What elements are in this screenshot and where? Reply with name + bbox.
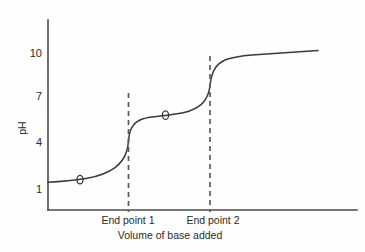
y-tick-label-7: 7 xyxy=(36,90,42,102)
titration-curve-figure: 10 7 4 1 pH End point 1 End point 2 Volu… xyxy=(0,0,365,252)
titration-curve xyxy=(48,51,318,183)
y-tick-label-4: 4 xyxy=(36,136,42,148)
y-axis-title: pH xyxy=(16,121,28,134)
chart-canvas: 10 7 4 1 pH End point 1 End point 2 Volu… xyxy=(0,0,365,252)
x-axis-title: Volume of base added xyxy=(118,229,223,241)
y-tick-label-1: 1 xyxy=(36,183,42,195)
end-point-1-label: End point 1 xyxy=(101,214,154,226)
end-point-2-label: End point 2 xyxy=(186,214,239,226)
y-tick-label-10: 10 xyxy=(30,47,42,59)
